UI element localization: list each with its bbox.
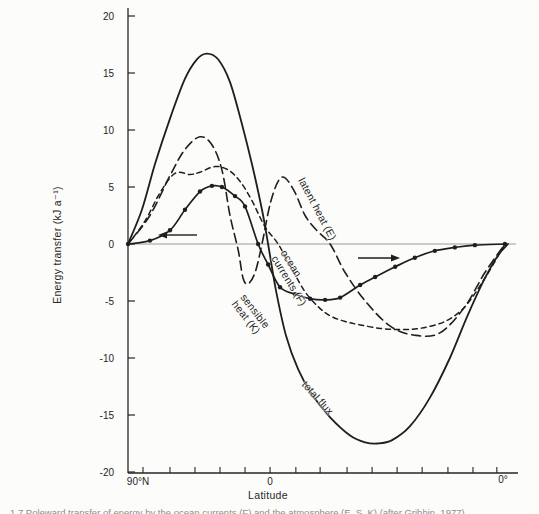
energy-transfer-chart: 20151050-5-10-15-2090°N00° — [0, 0, 539, 514]
x-label-right: 0° — [498, 474, 508, 485]
series-marker-dot — [243, 204, 247, 208]
series-marker-dot — [198, 189, 202, 193]
series-marker-dot — [473, 243, 477, 247]
series-marker-dot — [503, 242, 507, 246]
series-marker-dot — [358, 283, 362, 287]
series-marker-dot — [393, 265, 397, 269]
series-marker-dot — [233, 194, 237, 198]
y-tick-label: 10 — [103, 125, 115, 136]
y-tick-label: -20 — [100, 467, 115, 478]
series-marker-dot — [433, 249, 437, 253]
series-marker-dot — [183, 208, 187, 212]
series-marker-dot — [256, 242, 260, 246]
series-marker-dot — [210, 184, 214, 188]
series-marker-dot — [266, 262, 270, 266]
series-marker-dot — [148, 238, 152, 242]
y-tick-label: -10 — [100, 353, 115, 364]
series-marker-dot — [126, 242, 130, 246]
series-marker-dot — [220, 185, 224, 189]
series-marker-dot — [453, 245, 457, 249]
x-axis-title: Latitude — [248, 489, 288, 501]
series-latent-heat-e- — [128, 137, 505, 337]
y-tick-label: 0 — [108, 239, 114, 250]
y-tick-label: 15 — [103, 68, 115, 79]
series-marker-dot — [338, 295, 342, 299]
series-marker-dot — [323, 298, 327, 302]
series-marker-dot — [168, 228, 172, 232]
y-tick-label: -15 — [100, 410, 115, 421]
scanned-figure-page: 20151050-5-10-15-2090°N00° Energy transf… — [0, 0, 539, 514]
y-tick-label: 20 — [103, 11, 115, 22]
y-tick-label: 5 — [108, 182, 114, 193]
series-marker-dot — [373, 275, 377, 279]
x-label-90n: 90°N — [127, 476, 149, 487]
figure-caption-clipped: 1.7 Poleward transfer of energy by the o… — [10, 507, 535, 514]
y-axis-title: Energy transfer (kJ a⁻¹) — [51, 186, 63, 304]
x-label-equator: 0 — [267, 476, 273, 487]
series-marker-dot — [278, 285, 282, 289]
right-arrow-head — [391, 254, 400, 261]
y-tick-label: -5 — [105, 296, 114, 307]
series-marker-dot — [413, 255, 417, 259]
